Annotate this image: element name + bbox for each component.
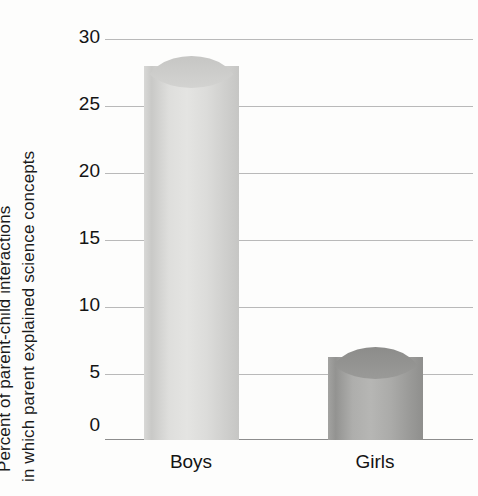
bar-girls[interactable] [328, 347, 423, 440]
y-tick-label-20: 20 [0, 160, 100, 182]
y-tick-label-15: 15 [0, 227, 100, 249]
y-tick-label-25: 25 [0, 93, 100, 115]
y-tick-label-5: 5 [0, 361, 100, 383]
x-tick-label-boys: Boys [141, 451, 241, 473]
y-tick-label-0: 0 [0, 414, 100, 436]
plot-area [105, 39, 473, 440]
bar-boys[interactable] [144, 56, 239, 440]
x-tick-label-girls: Girls [325, 451, 425, 473]
bar-boys-body [144, 66, 239, 440]
bar-girls-cap [328, 347, 423, 381]
y-tick-label-10: 10 [0, 294, 100, 316]
y-tick-label-30: 30 [0, 26, 100, 48]
chart-figure: Percent of parent-child interactions in … [0, 0, 478, 496]
bar-boys-cap [144, 56, 239, 90]
gridline-30 [105, 39, 473, 40]
